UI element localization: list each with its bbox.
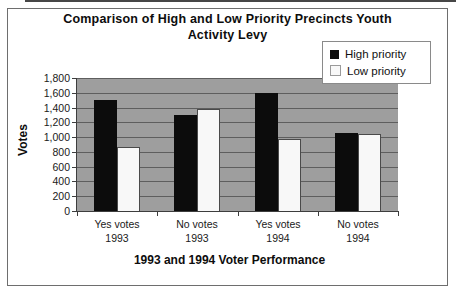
x-axis-tick bbox=[157, 212, 158, 216]
legend: High priority Low priority bbox=[322, 41, 431, 84]
page-top-rule bbox=[25, 0, 456, 2]
legend-item-high-priority: High priority bbox=[330, 48, 423, 60]
x-axis-tick bbox=[318, 212, 319, 216]
chart-title: Comparison of High and Low Priority Prec… bbox=[7, 11, 448, 43]
y-axis-tick bbox=[72, 181, 77, 182]
high-priority-swatch-icon bbox=[330, 50, 339, 59]
chart-title-line-1: Comparison of High and Low Priority Prec… bbox=[7, 11, 448, 27]
y-tick-label: 400 bbox=[26, 175, 70, 187]
bar-low-priority bbox=[358, 134, 381, 211]
x-axis-title: 1993 and 1994 Voter Performance bbox=[69, 253, 390, 267]
y-tick-label: 1,200 bbox=[26, 116, 70, 128]
legend-item-low-priority: Low priority bbox=[330, 65, 423, 77]
x-axis-tick bbox=[77, 212, 78, 216]
y-axis-line bbox=[76, 78, 77, 212]
y-axis-tick bbox=[72, 108, 77, 109]
y-axis-tick bbox=[72, 196, 77, 197]
bar-low-priority bbox=[117, 147, 140, 211]
y-tick-label: 1,800 bbox=[26, 72, 70, 84]
bar-high-priority bbox=[174, 115, 197, 211]
y-tick-label: 1,000 bbox=[26, 131, 70, 143]
y-tick-label: 800 bbox=[26, 146, 70, 158]
bar-high-priority bbox=[94, 100, 117, 211]
screenshot-page: Comparison of High and Low Priority Prec… bbox=[0, 0, 456, 292]
x-axis-tick bbox=[238, 212, 239, 216]
legend-label-low-priority: Low priority bbox=[347, 65, 406, 77]
y-axis-tick bbox=[72, 167, 77, 168]
gridline bbox=[77, 93, 398, 94]
x-axis-tick bbox=[398, 212, 399, 216]
bar-low-priority bbox=[197, 109, 220, 211]
y-axis-tick bbox=[72, 93, 77, 94]
y-axis-tick bbox=[72, 137, 77, 138]
x-category-label: No votes 1994 bbox=[308, 217, 408, 245]
gridline bbox=[77, 122, 398, 123]
low-priority-swatch-icon bbox=[330, 65, 341, 76]
gridline bbox=[77, 108, 398, 109]
y-axis-tick bbox=[72, 78, 77, 79]
bar-low-priority bbox=[278, 139, 301, 211]
plot-area bbox=[77, 78, 398, 211]
bar-high-priority bbox=[255, 93, 278, 211]
y-tick-label: 0 bbox=[26, 205, 70, 217]
y-tick-label: 600 bbox=[26, 161, 70, 173]
bar-high-priority bbox=[335, 133, 358, 211]
legend-label-high-priority: High priority bbox=[345, 48, 406, 60]
y-tick-label: 1,400 bbox=[26, 102, 70, 114]
y-tick-label: 200 bbox=[26, 190, 70, 202]
y-axis-tick bbox=[72, 152, 77, 153]
y-tick-label: 1,600 bbox=[26, 87, 70, 99]
y-axis-tick bbox=[72, 122, 77, 123]
